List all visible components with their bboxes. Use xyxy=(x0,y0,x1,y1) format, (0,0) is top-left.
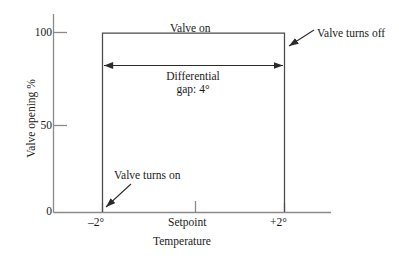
valve-turns-off-leader xyxy=(289,30,314,46)
y-tick-label-0: 0 xyxy=(46,205,52,218)
valve-hysteresis-chart: 100 50 0 Valve opening % –2° Setpoint +2… xyxy=(0,0,399,258)
annotation-differential-gap-line1: Differential xyxy=(150,70,236,83)
y-tick-label-50: 50 xyxy=(41,119,53,132)
annotation-valve-on: Valve on xyxy=(170,22,211,35)
annotation-differential-gap-line2: gap: 4° xyxy=(150,83,236,96)
annotation-valve-turns-off: Valve turns off xyxy=(317,27,385,40)
y-tick-label-100: 100 xyxy=(35,26,52,39)
annotation-valve-turns-on: Valve turns on xyxy=(114,169,180,182)
x-tick-label-minus-2: –2° xyxy=(88,216,104,229)
x-axis-title: Temperature xyxy=(153,235,211,248)
y-axis-title: Valve opening % xyxy=(25,58,38,178)
annotation-differential-gap: Differential gap: 4° xyxy=(150,70,236,96)
valve-turns-on-leader xyxy=(106,184,131,207)
x-tick-label-setpoint: Setpoint xyxy=(168,216,206,229)
x-tick-label-plus-2: +2° xyxy=(270,216,287,229)
